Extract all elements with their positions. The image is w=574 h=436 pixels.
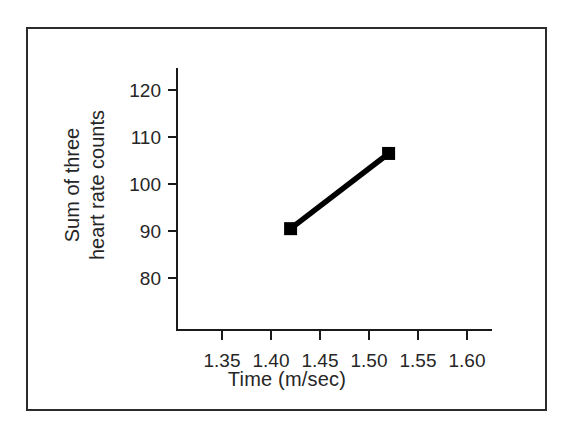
axes-group <box>176 68 492 330</box>
y-tick-label-90: 90 <box>77 222 161 241</box>
data-series-group <box>284 147 395 235</box>
y-tick-label-120: 120 <box>77 81 161 100</box>
x-axis-title: Time (m/sec) <box>0 368 574 391</box>
y-tick-label-80: 80 <box>77 269 161 288</box>
data-point-marker <box>382 147 395 160</box>
series-line <box>291 153 389 228</box>
tick-marks-group <box>168 90 467 340</box>
y-tick-label-110: 110 <box>77 128 161 147</box>
y-tick-label-100: 100 <box>77 175 161 194</box>
figure-container: 8090100110120 1.351.401.451.501.551.60 T… <box>0 0 574 436</box>
data-point-marker <box>284 222 297 235</box>
